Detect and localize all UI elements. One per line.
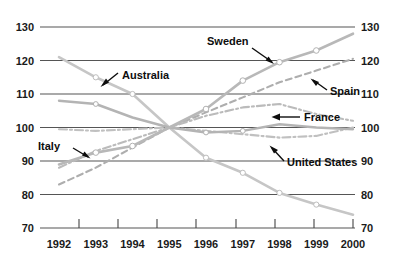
y-tick-left-70: 70 (22, 222, 34, 234)
annotation-label-sweden: Sweden (207, 35, 249, 47)
series-markers-sweden (93, 48, 319, 156)
annotation-label-spain: Spain (330, 85, 360, 97)
x-tickmarks (79, 219, 353, 228)
annotation-sweden: Sweden (207, 35, 274, 64)
x-tick-label-1998: 1998 (267, 238, 291, 250)
annotation-united-states: United States (270, 146, 358, 169)
leader-arrowhead-spain (311, 79, 320, 87)
y-tick-left-120: 120 (16, 55, 34, 67)
annotation-label-united-states: United States (287, 156, 357, 168)
y-tick-right-130: 130 (361, 21, 379, 33)
x-tick-label-1996: 1996 (194, 238, 218, 250)
series-sweden (59, 34, 353, 165)
x-tick-label-1994: 1994 (120, 238, 145, 250)
x-tick-label-1992: 1992 (47, 238, 71, 250)
y-tick-left-110: 110 (16, 88, 34, 100)
x-axis-labels: 1992 1993 1994 1995 1996 1997 1998 1999 … (47, 238, 365, 250)
annotation-label-australia: Australia (122, 69, 170, 81)
line-chart: 130 120 110 100 90 80 70 130 120 110 100… (0, 0, 406, 277)
y-tick-left-130: 130 (16, 21, 34, 33)
y-tick-right-80: 80 (361, 189, 373, 201)
x-tick-label-1995: 1995 (157, 238, 181, 250)
y-tick-left-100: 100 (16, 122, 34, 134)
series-line-sweden (59, 34, 353, 165)
y-tick-right-90: 90 (361, 155, 373, 167)
x-tick-label-1999: 1999 (304, 238, 328, 250)
x-tick-label-1993: 1993 (84, 238, 108, 250)
y-tick-right-70: 70 (361, 222, 373, 234)
x-tick-label-2000: 2000 (341, 238, 365, 250)
leader-arrowhead-france (272, 114, 281, 121)
x-tick-label-1997: 1997 (231, 238, 255, 250)
chart-page: 130 120 110 100 90 80 70 130 120 110 100… (0, 0, 406, 277)
y-tick-left-90: 90 (22, 155, 34, 167)
annotation-label-italy: Italy (38, 140, 61, 152)
y-tick-right-120: 120 (361, 55, 379, 67)
y-tick-right-110: 110 (361, 88, 379, 100)
y-tick-left-80: 80 (22, 189, 34, 201)
y-tick-right-100: 100 (361, 122, 379, 134)
annotation-label-france: France (304, 111, 340, 123)
annotation-france: France (272, 111, 341, 123)
y-axis-left: 130 120 110 100 90 80 70 (16, 21, 34, 234)
y-axis-right: 130 120 110 100 90 80 70 (361, 21, 379, 234)
